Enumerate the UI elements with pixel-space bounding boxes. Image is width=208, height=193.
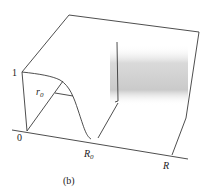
r0-radius-line [27, 81, 63, 131]
front-vertical-edge [22, 72, 27, 131]
r0-level-line [55, 93, 73, 96]
top-back-edge [69, 15, 199, 32]
label-origin: 0 [17, 132, 22, 143]
label-one: 1 [12, 67, 17, 78]
figure-caption: (b) [63, 175, 75, 187]
back-left-edge [22, 15, 69, 72]
surface-plot-diagram: 1 0 r0 R0 R (b) [0, 0, 208, 193]
label-r0: r0 [36, 86, 44, 99]
label-R: R [162, 160, 169, 171]
profile-curve [22, 72, 91, 139]
shaded-surface-region [110, 45, 188, 105]
label-R0: R0 [83, 148, 94, 161]
